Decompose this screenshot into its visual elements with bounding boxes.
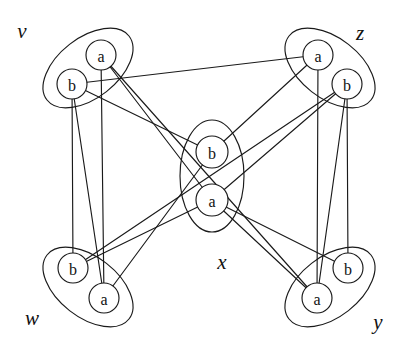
cluster-boundary-w — [29, 231, 148, 342]
node-label-w_a: a — [100, 291, 107, 308]
node-label-x_b: b — [208, 145, 216, 162]
edges-layer — [72, 55, 348, 298]
graph-edge — [72, 84, 212, 152]
graph-edge — [72, 84, 73, 268]
graph-node-v_a: a — [86, 40, 116, 70]
cluster-label-z: z — [355, 21, 364, 45]
cluster-boundary-y — [271, 231, 390, 342]
graph-node-w_b: b — [58, 253, 88, 283]
cluster-label-v: v — [17, 19, 27, 43]
node-label-x_a: a — [208, 193, 215, 210]
graph-node-z_a: a — [303, 40, 333, 70]
graph-figure: ababbababa vzxwy — [0, 0, 407, 357]
graph-node-x_a: a — [196, 184, 228, 216]
cluster-boundary-v — [29, 12, 148, 123]
graph-node-x_b: b — [196, 136, 228, 168]
node-label-y_b: b — [344, 261, 352, 278]
graph-edge — [73, 84, 347, 268]
graph-node-y_a: a — [302, 283, 332, 313]
graph-edge — [317, 55, 318, 298]
graph-node-y_b: b — [333, 253, 363, 283]
cluster-label-x: x — [216, 250, 227, 274]
node-label-w_b: b — [69, 261, 77, 278]
node-label-y_a: a — [313, 291, 320, 308]
graph-edge — [212, 200, 348, 268]
node-label-v_b: b — [68, 77, 76, 94]
cluster-label-y: y — [371, 310, 383, 334]
clusters-layer — [29, 12, 390, 342]
node-label-z_a: a — [314, 48, 321, 65]
graph-edge — [347, 84, 348, 268]
graph-edge — [212, 200, 317, 298]
node-label-v_a: a — [97, 48, 104, 65]
graph-edge — [212, 55, 318, 152]
node-label-z_b: b — [343, 77, 351, 94]
graph-node-v_b: b — [57, 69, 87, 99]
cluster-boundary-z — [271, 12, 390, 123]
cluster-label-w: w — [25, 306, 39, 330]
graph-node-w_a: a — [89, 283, 119, 313]
graph-node-z_b: b — [332, 69, 362, 99]
graph-canvas: ababbababa vzxwy — [0, 0, 407, 357]
